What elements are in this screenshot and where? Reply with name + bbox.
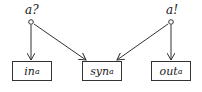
input-node-circle: [29, 20, 34, 25]
output-node-circle: [169, 20, 174, 25]
in-box-subscript: a: [35, 67, 40, 76]
in-box-label: in: [24, 65, 35, 78]
out-box-subscript: a: [178, 67, 183, 76]
in-box: ina: [12, 61, 52, 81]
syn-box: syna: [82, 61, 122, 81]
input-node-label: a?: [25, 4, 39, 16]
out-box: outa: [151, 61, 191, 81]
output-node-label: a!: [166, 4, 178, 16]
edge-input-to-syn: [34, 24, 86, 60]
out-box-label: out: [160, 65, 178, 78]
syn-box-subscript: a: [109, 67, 114, 76]
syn-box-label: syn: [90, 65, 109, 78]
edge-output-to-syn: [117, 24, 168, 60]
